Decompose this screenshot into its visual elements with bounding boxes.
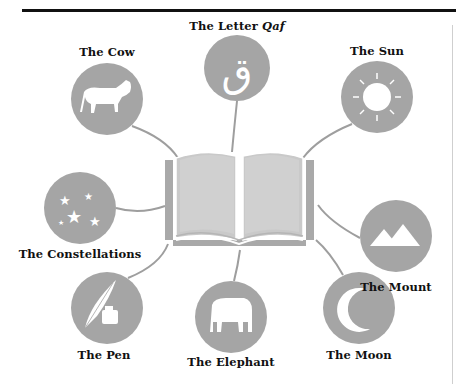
label-qaf-italic: Qaf	[262, 19, 285, 33]
connector-moon	[316, 240, 343, 275]
label-moon: The Moon	[326, 348, 391, 362]
label-constellations: The Constellations	[19, 247, 142, 261]
svg-text:★: ★	[89, 214, 101, 229]
label-elephant: The Elephant	[187, 355, 274, 369]
connector-cow	[132, 126, 178, 158]
connectors	[116, 101, 360, 281]
svg-text:★: ★	[58, 219, 64, 227]
label-cow: The Cow	[79, 45, 135, 59]
book-icon	[165, 152, 314, 246]
node-constellations: ★ ★ ★ ★ ★	[44, 172, 116, 244]
node-pen	[71, 272, 143, 344]
node-sun	[341, 61, 413, 133]
svg-text:★: ★	[66, 206, 82, 227]
label-qaf: The Letter Qaf	[189, 19, 284, 33]
connector-mount	[318, 205, 360, 238]
connector-elephant	[234, 250, 240, 281]
label-mount: The Mount	[360, 280, 432, 294]
node-qaf: ق	[204, 35, 270, 101]
label-pen: The Pen	[78, 348, 131, 362]
node-cow	[71, 63, 143, 135]
connector-constellations	[116, 206, 165, 211]
label-qaf-prefix: The Letter	[189, 19, 262, 33]
node-elephant	[195, 281, 267, 353]
arabic-letter-qaf-icon: ق	[221, 49, 252, 95]
connector-sun	[303, 124, 352, 158]
connector-qaf	[232, 101, 237, 152]
label-sun: The Sun	[350, 44, 404, 58]
node-mount	[360, 200, 432, 272]
svg-text:★: ★	[84, 191, 93, 202]
